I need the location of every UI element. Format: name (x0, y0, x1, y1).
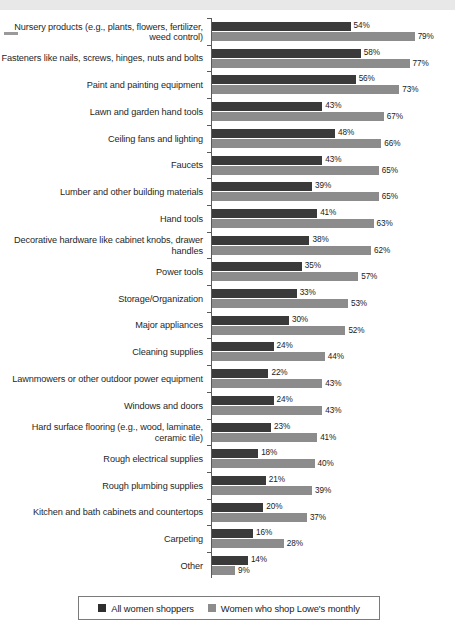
bar-value-label: 43% (325, 101, 341, 110)
bar-b (212, 459, 315, 468)
bar-b (212, 32, 415, 41)
bar-a (212, 449, 258, 458)
category-label-wrap: Nursery products (e.g., plants, flowers,… (0, 18, 206, 46)
bar-value-label: 79% (418, 32, 434, 41)
category-label: Paint and painting equipment (87, 80, 206, 90)
bar-value-label: 44% (328, 352, 344, 361)
chart-row: Power tools35%57% (0, 258, 455, 286)
bar-value-label: 35% (305, 261, 321, 270)
bar-a (212, 102, 322, 111)
bar-b (212, 272, 358, 281)
category-label-wrap: Cleaning supplies (0, 338, 206, 366)
bar-value-label: 65% (382, 192, 398, 201)
category-label-wrap: Decorative hardware like cabinet knobs, … (0, 232, 206, 260)
bar-value-label: 16% (256, 528, 272, 537)
bar-value-label: 39% (315, 486, 331, 495)
bar-group: 39%65% (212, 178, 455, 206)
bar-group: 14%9% (212, 552, 455, 580)
category-label: Nursery products (e.g., plants, flowers,… (0, 22, 206, 43)
bar-group: 58%77% (212, 45, 455, 73)
bar-group: 43%67% (212, 98, 455, 126)
chart-legend: All women shoppersWomen who shop Lowe's … (78, 596, 380, 620)
category-label-wrap: Lawnmowers or other outdoor power equipm… (0, 365, 206, 393)
bar-value-label: 43% (325, 155, 341, 164)
bar-a (212, 476, 266, 485)
category-label-wrap: Windows and doors (0, 392, 206, 420)
bar-value-label: 22% (271, 368, 287, 377)
bar-value-label: 62% (374, 246, 390, 255)
bar-value-label: 43% (325, 379, 341, 388)
chart-row: Lawnmowers or other outdoor power equipm… (0, 365, 455, 393)
legend-item[interactable]: Women who shop Lowe's monthly (208, 603, 360, 614)
category-label: Faucets (171, 160, 206, 170)
bar-value-label: 9% (238, 566, 250, 575)
bar-b (212, 192, 379, 201)
bar-value-label: 73% (402, 85, 418, 94)
horizontal-bar-chart: Nursery products (e.g., plants, flowers,… (0, 18, 455, 578)
bar-value-label: 33% (300, 288, 316, 297)
bar-b (212, 379, 322, 388)
bar-value-label: 77% (413, 59, 429, 68)
bar-value-label: 53% (351, 299, 367, 308)
bar-a (212, 156, 322, 165)
category-label: Lawnmowers or other outdoor power equipm… (12, 374, 206, 384)
bar-value-label: 24% (277, 395, 293, 404)
bar-a (212, 289, 297, 298)
bar-value-label: 57% (361, 272, 377, 281)
chart-row: Lumber and other building materials39%65… (0, 178, 455, 206)
chart-row: Fasteners like nails, screws, hinges, nu… (0, 45, 455, 73)
bar-b (212, 326, 345, 335)
category-label-wrap: Lumber and other building materials (0, 178, 206, 206)
bar-b (212, 139, 381, 148)
category-label: Rough plumbing supplies (102, 481, 206, 491)
bar-a (212, 236, 309, 245)
bar-value-label: 56% (359, 74, 375, 83)
bar-a (212, 49, 361, 58)
bar-a (212, 182, 312, 191)
bar-value-label: 39% (315, 181, 331, 190)
bar-a (212, 129, 335, 138)
chart-row: Rough plumbing supplies21%39% (0, 472, 455, 500)
bar-value-label: 67% (387, 112, 403, 121)
bar-b (212, 513, 307, 522)
category-label-wrap: Fasteners like nails, screws, hinges, nu… (0, 45, 206, 73)
category-label: Hand tools (160, 214, 206, 224)
bar-a (212, 556, 248, 565)
category-label: Lumber and other building materials (60, 187, 206, 197)
category-label: Other (181, 561, 206, 571)
bar-value-label: 18% (261, 448, 277, 457)
bar-value-label: 41% (320, 208, 336, 217)
bar-a (212, 529, 253, 538)
chart-row: Cleaning supplies24%44% (0, 338, 455, 366)
bar-b (212, 352, 325, 361)
bar-group: 21%39% (212, 472, 455, 500)
category-label: Power tools (156, 267, 206, 277)
bar-group: 43%65% (212, 152, 455, 180)
category-label: Ceiling fans and lighting (108, 134, 206, 144)
bar-group: 48%66% (212, 125, 455, 153)
bar-b (212, 566, 235, 575)
bar-b (212, 539, 284, 548)
bar-a (212, 262, 302, 271)
bar-b (212, 59, 410, 68)
category-label-wrap: Rough electrical supplies (0, 445, 206, 473)
bar-value-label: 23% (274, 422, 290, 431)
chart-row: Ceiling fans and lighting48%66% (0, 125, 455, 153)
bar-group: 20%37% (212, 499, 455, 527)
legend-item[interactable]: All women shoppers (98, 603, 194, 614)
chart-row: Other14%9% (0, 552, 455, 580)
category-label-wrap: Lawn and garden hand tools (0, 98, 206, 126)
category-label: Carpeting (164, 534, 206, 544)
category-label: Windows and doors (124, 401, 206, 411)
bar-value-label: 38% (312, 235, 328, 244)
bar-group: 30%52% (212, 312, 455, 340)
chart-row: Windows and doors24%43% (0, 392, 455, 420)
bar-group: 54%79% (212, 18, 455, 46)
bar-value-label: 52% (348, 326, 364, 335)
page-top-band (0, 0, 455, 10)
chart-row: Kitchen and bath cabinets and countertop… (0, 499, 455, 527)
category-label: Storage/Organization (118, 294, 206, 304)
category-label: Fasteners like nails, screws, hinges, nu… (1, 53, 206, 63)
chart-row: Paint and painting equipment56%73% (0, 71, 455, 99)
bar-value-label: 58% (364, 48, 380, 57)
